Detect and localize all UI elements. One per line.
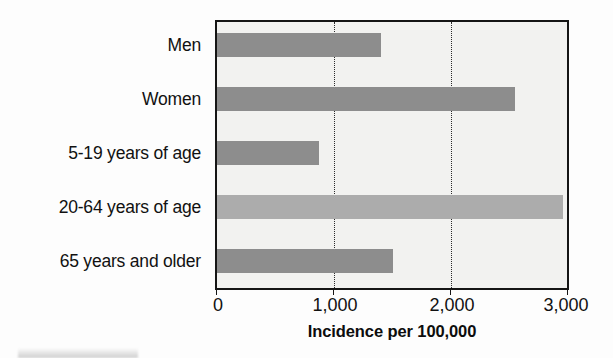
- category-label-women: Women: [142, 87, 201, 111]
- plot-inner: [217, 22, 567, 288]
- category-label-65plus: 65 years and older: [60, 249, 201, 273]
- bar-men: [217, 33, 381, 57]
- category-label-20-64: 20-64 years of age: [59, 195, 201, 219]
- tick-label-3000: 3,000: [543, 295, 588, 316]
- category-label-5-19: 5-19 years of age: [68, 141, 201, 165]
- category-label-men: Men: [168, 33, 201, 57]
- category-label-column: Men Women 5-19 years of age 20-64 years …: [0, 21, 209, 289]
- figure-bar-chart: Men Women 5-19 years of age 20-64 years …: [0, 0, 613, 358]
- tick-label-0: 0: [213, 295, 223, 316]
- tick-mark-0: [216, 288, 217, 295]
- bar-women: [217, 87, 515, 111]
- bar-65plus: [217, 249, 393, 273]
- tick-mark-1000: [333, 288, 334, 295]
- x-axis-title: Incidence per 100,000: [215, 322, 569, 341]
- tick-mark-2000: [450, 288, 451, 295]
- tick-label-1000: 1,000: [312, 295, 357, 316]
- tick-label-2000: 2,000: [429, 295, 474, 316]
- bar-5-19: [217, 141, 319, 165]
- tick-mark-3000: [567, 288, 568, 295]
- bar-20-64: [217, 195, 563, 219]
- page-scan-artifact: [18, 348, 138, 358]
- gridline-2000: [451, 22, 453, 288]
- plot-area: [215, 20, 569, 290]
